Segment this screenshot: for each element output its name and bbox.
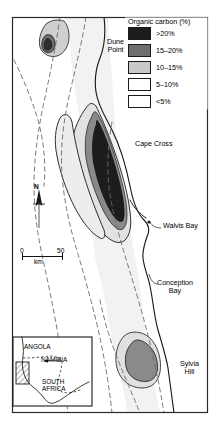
label-cape-cross: Cape Cross [135, 140, 172, 148]
walvis-bay-point [147, 220, 150, 223]
label-walvis-bay: Walvis Bay [163, 222, 198, 230]
organic-carbon-map-figure: Organic carbon (%) >20% 15–20% 10–15% 5–… [0, 0, 219, 434]
legend-label-gt20: >20% [156, 29, 175, 38]
label-sylvia-hill: Sylvia Hill [180, 360, 199, 376]
legend: Organic carbon (%) >20% 15–20% 10–15% 5–… [126, 17, 208, 109]
legend-label-lt5: <5% [156, 97, 171, 106]
legend-row-15-20: 15–20% [128, 44, 208, 58]
inset-label-namibia: NAMIBIA [41, 356, 67, 363]
scale-bar-unit: km [34, 258, 43, 265]
legend-row-lt5: <5% [128, 95, 208, 109]
north-arrow: N [31, 183, 47, 229]
legend-label-10-15: 10–15% [156, 63, 182, 72]
inset-label-angola: ANGOLA [24, 343, 51, 350]
inset-label-south-africa: SOUTH AFRICA [42, 378, 65, 392]
legend-swatch-gt20 [128, 27, 151, 40]
legend-row-gt20: >20% [128, 27, 208, 41]
scale-bar: 0 50 km [20, 247, 70, 269]
north-arrow-label: N [34, 183, 39, 190]
legend-label-5-10: 5–10% [156, 80, 178, 89]
inset-map-labels: ANGOLA NAMIBIA SOUTH AFRICA [13, 337, 92, 406]
scale-bar-line [22, 256, 62, 257]
legend-label-15-20: 15–20% [156, 46, 182, 55]
legend-row-5-10: 5–10% [128, 78, 208, 92]
legend-title: Organic carbon (%) [128, 17, 190, 26]
label-dune-point: Dune Point [107, 38, 124, 54]
scale-bar-tick-left [22, 253, 23, 260]
legend-swatch-5-10 [128, 78, 151, 91]
legend-swatch-10-15 [128, 61, 151, 74]
legend-row-10-15: 10–15% [128, 61, 208, 75]
legend-swatch-15-20 [128, 44, 151, 57]
legend-swatch-lt5 [128, 95, 151, 108]
scale-bar-tick-right [62, 253, 63, 260]
scale-bar-max: 50 [57, 247, 64, 254]
label-conception-bay: Conception Bay [157, 279, 193, 295]
